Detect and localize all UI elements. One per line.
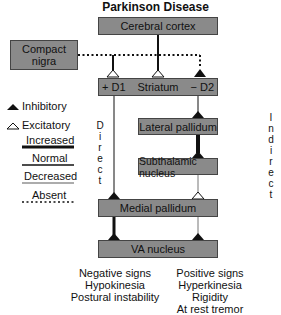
negative-signs: Negative signs Hypokinesia Postural inst… (60, 267, 170, 303)
medial-pallidum-label: Medial pallidum (120, 202, 196, 214)
indirect-pathway-label: I n d i r e c t (266, 112, 276, 200)
direct-pathway-label: D i r e c t (95, 120, 105, 186)
va-nucleus-box: VA nucleus (98, 240, 218, 258)
subthalamic-nucleus-label: Subthalamic nucleus (139, 155, 217, 179)
legend-normal: Normal (32, 152, 67, 164)
legend-excitatory: Excitatory (22, 119, 70, 131)
lateral-pallidum-box: Lateral pallidum (138, 118, 218, 135)
legend-increased: Increased (26, 134, 74, 146)
inhibitory-icon (7, 104, 19, 110)
legend-absent: Absent (32, 189, 66, 201)
subthalamic-nucleus-box: Subthalamic nucleus (138, 158, 218, 175)
excitatory-icon (7, 123, 19, 129)
d2-label: − D2 (190, 81, 214, 93)
va-nucleus-label: VA nucleus (131, 243, 185, 255)
positive-signs: Positive signs Hyperkinesia Rigidity At … (165, 267, 255, 315)
compact-nigra-box: Compact nigra (10, 40, 78, 70)
legend-inhibitory: Inhibitory (22, 100, 67, 112)
striatum-label: Striatum (138, 81, 179, 93)
lateral-pallidum-label: Lateral pallidum (139, 121, 217, 133)
compact-nigra-label-2: nigra (32, 55, 56, 67)
cerebral-cortex-label: Cerebral cortex (120, 20, 195, 32)
d1-label: + D1 (102, 81, 126, 93)
cerebral-cortex-box: Cerebral cortex (98, 17, 218, 35)
compact-nigra-label-1: Compact (22, 43, 66, 55)
legend-decreased: Decreased (24, 170, 77, 182)
striatum-box: + D1 Striatum − D2 (98, 78, 218, 96)
medial-pallidum-box: Medial pallidum (98, 199, 218, 217)
